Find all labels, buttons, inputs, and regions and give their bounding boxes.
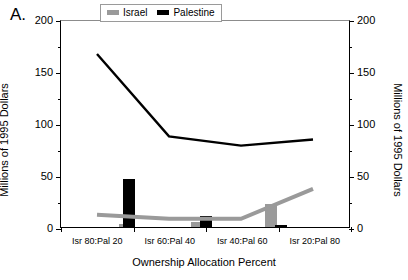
legend: Israel Palestine [100, 4, 222, 22]
x-tick-label: Isr 80:Pal 20 [72, 236, 123, 246]
y-tick-label-right: 150 [357, 67, 375, 78]
series-lines [61, 21, 349, 227]
y-axis-title-left-text: Millions of 1995 Dollars [0, 83, 10, 197]
y-tick-label-left: 150 [35, 67, 53, 78]
legend-swatch-palestine [157, 10, 169, 15]
y-tick-major [349, 73, 354, 74]
y-tick-major [349, 177, 354, 178]
x-tick-label: Isr 60:Pal 40 [144, 236, 195, 246]
x-axis-title: Ownership Allocation Percent [0, 256, 408, 268]
line-israel [97, 189, 313, 219]
y-tick-minor [349, 151, 352, 152]
y-axis-title-right-text: Millions of 1995 Dollars [392, 83, 404, 197]
plot-inner [61, 21, 349, 227]
x-tick [134, 227, 135, 232]
y-tick-minor [349, 99, 352, 100]
x-tick [206, 227, 207, 232]
y-tick-label-left: 100 [35, 119, 53, 130]
y-tick-minor [349, 47, 352, 48]
plot-area: 005050100100150150200200 Isr 80:Pal 20Is… [60, 20, 350, 228]
y-tick-label-left: 0 [47, 223, 53, 234]
y-tick-label-left: 200 [35, 15, 53, 26]
figure-panel-a: A. Millions of 1995 Dollars Millions of … [0, 0, 408, 280]
x-tick-label: Isr 20:Pal 80 [289, 236, 340, 246]
y-tick-minor [349, 203, 352, 204]
y-tick-major [349, 21, 354, 22]
y-tick-label-left: 50 [41, 171, 53, 182]
y-tick-label-right: 200 [357, 15, 375, 26]
legend-swatch-israel [107, 10, 119, 15]
x-tick [61, 227, 62, 232]
x-tick [279, 227, 280, 232]
line-palestine [97, 54, 313, 146]
legend-item-palestine[interactable]: Palestine [157, 7, 214, 18]
legend-item-israel[interactable]: Israel [107, 7, 147, 18]
x-tick [351, 227, 352, 232]
y-tick-label-right: 0 [357, 223, 363, 234]
y-tick-major [349, 125, 354, 126]
legend-label-israel: Israel [123, 7, 147, 18]
legend-label-palestine: Palestine [173, 7, 214, 18]
y-tick-label-right: 100 [357, 119, 375, 130]
panel-label: A. [10, 6, 26, 23]
y-tick-label-right: 50 [357, 171, 369, 182]
x-tick-label: Isr 40:Pal 60 [217, 236, 268, 246]
